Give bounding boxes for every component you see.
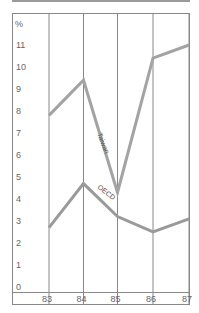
y-tick-label: 7 bbox=[16, 128, 21, 138]
y-tick-label: 0 bbox=[16, 282, 21, 292]
y-tick-label: 1 bbox=[16, 260, 21, 270]
vertical-gridlines bbox=[49, 13, 189, 304]
y-tick-label: 5 bbox=[16, 172, 21, 182]
chart-frame bbox=[13, 14, 190, 305]
y-tick-label: 6 bbox=[16, 150, 21, 160]
x-tick-label: 84 bbox=[76, 294, 86, 304]
y-axis-labels: 01234567891011 bbox=[16, 40, 26, 292]
series-line-taiwan bbox=[49, 45, 189, 192]
series-label-taiwan: Taiwan bbox=[96, 132, 111, 155]
x-tick-label: 87 bbox=[182, 294, 192, 304]
y-unit-label: % bbox=[15, 19, 23, 29]
x-tick-label: 85 bbox=[110, 294, 120, 304]
y-tick-label: 2 bbox=[16, 238, 21, 248]
y-tick-label: 9 bbox=[16, 84, 21, 94]
x-tick-label: 86 bbox=[146, 294, 156, 304]
y-tick-label: 4 bbox=[16, 194, 21, 204]
y-tick-label: 8 bbox=[16, 106, 21, 116]
x-axis-labels: 8384858687 bbox=[42, 294, 192, 304]
y-tick-label: 11 bbox=[16, 40, 25, 50]
x-tick-label: 83 bbox=[42, 294, 52, 304]
line-chart: 01234567891011 % 8384858687 Taiwan OECD bbox=[0, 0, 199, 313]
y-tick-label: 10 bbox=[16, 62, 26, 72]
y-tick-label: 3 bbox=[16, 216, 21, 226]
